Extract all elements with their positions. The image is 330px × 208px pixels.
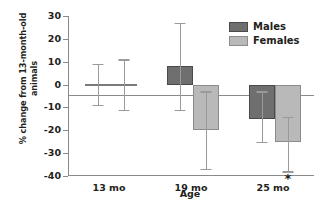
y-tick--40	[63, 176, 68, 177]
y-tick-label--40: -40	[44, 171, 61, 181]
y-axis-title-line1: % change from 13-month-old	[18, 13, 28, 145]
y-tick-label--10: -10	[44, 103, 61, 113]
error-cap-upper	[283, 117, 294, 118]
error-cap-upper	[175, 23, 186, 24]
legend-item-males: Males	[229, 20, 300, 34]
legend-item-females: Females	[229, 34, 300, 48]
error-cap-upper	[257, 91, 268, 92]
error-cap-upper	[93, 64, 104, 65]
y-tick-10	[63, 62, 68, 63]
y-tick--10	[63, 107, 68, 108]
y-tick-label-20: 20	[48, 34, 61, 44]
y-tick-20	[63, 39, 68, 40]
legend-label-females: Females	[253, 36, 300, 46]
y-tick-label--20: -20	[44, 126, 61, 136]
x-tick-label-13-mo: 13 mo	[93, 182, 126, 193]
error-cap-lower	[201, 169, 212, 170]
legend: Males Females	[229, 20, 300, 48]
y-tick-label-0: 0	[54, 80, 61, 90]
y-tick--20	[63, 130, 68, 131]
error-bar-males-19-mo	[180, 23, 181, 110]
error-bar-females-25-mo	[288, 117, 289, 172]
y-tick-0	[63, 85, 68, 86]
error-bar-females-19-mo	[206, 91, 207, 169]
y-tick-label-30: 30	[48, 11, 61, 21]
error-cap-lower	[175, 110, 186, 111]
y-tick--30	[63, 153, 68, 154]
error-bar-males-13-mo	[98, 64, 99, 105]
x-tick-label-25-mo: 25 mo	[257, 182, 290, 193]
y-tick-30	[63, 16, 68, 17]
legend-label-males: Males	[253, 22, 286, 32]
y-tick-label-10: 10	[48, 57, 61, 67]
x-axis-title: Age	[180, 188, 201, 199]
y-tick-label--30: -30	[44, 148, 61, 158]
legend-swatch-males-icon	[229, 22, 248, 32]
y-axis-title: % change from 13-month-old animals	[18, 0, 39, 159]
chart-container: % change from 13-month-old animals 30201…	[0, 0, 330, 208]
error-cap-lower	[119, 110, 130, 111]
error-cap-upper	[119, 59, 130, 60]
legend-swatch-females-icon	[229, 36, 248, 46]
y-axis-title-line2: animals	[28, 0, 39, 159]
error-bar-females-13-mo	[124, 59, 125, 109]
error-cap-lower	[93, 105, 104, 106]
error-cap-lower	[257, 142, 268, 143]
error-bar-males-25-mo	[262, 91, 263, 141]
x-axis-line	[68, 175, 314, 176]
error-cap-upper	[201, 91, 212, 92]
